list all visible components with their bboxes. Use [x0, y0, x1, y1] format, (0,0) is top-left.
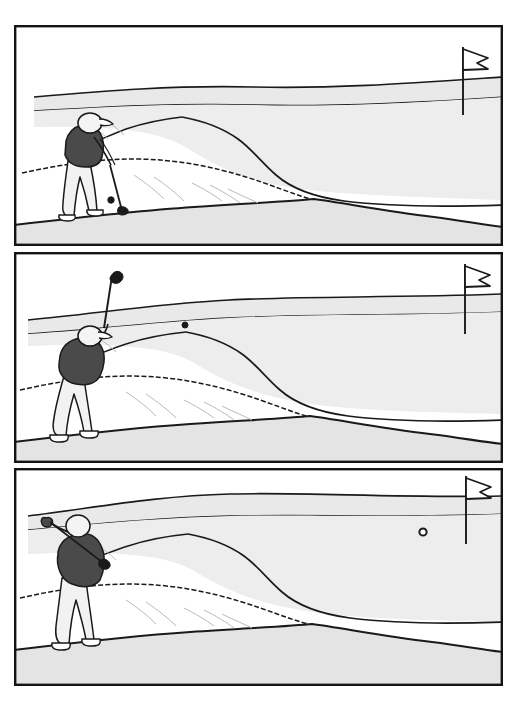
panel-3-artwork — [14, 468, 503, 686]
golf-club-head — [118, 207, 129, 215]
golfer-head — [78, 326, 102, 346]
illustration-page: Three stacked black-and-white line-drawi… — [0, 0, 517, 706]
golfer-head — [78, 113, 102, 133]
golfer-shoe-left — [59, 215, 75, 221]
golf-ball — [419, 528, 426, 535]
golfer-shoe-left — [50, 435, 68, 442]
golf-club-head — [99, 559, 111, 569]
golfer-shoe-right — [87, 210, 103, 216]
golfer-shoe-right — [80, 431, 98, 438]
golf-ball — [182, 322, 188, 328]
golfer-torso — [58, 534, 105, 587]
panel-2-artwork — [14, 252, 503, 463]
panel-3-scene — [14, 476, 503, 686]
comic-panel-3: Panel 3 — Follow-through Full finish, ha… — [14, 468, 503, 686]
golf-ball — [108, 197, 114, 203]
comic-panel-2: Panel 2 — Through impact Club swung up, … — [14, 252, 503, 463]
golfer-head — [66, 515, 90, 537]
panel-1-artwork — [14, 25, 503, 246]
golfer-shoe-left — [52, 643, 70, 650]
comic-panel-1: Panel 1 — Address Addressing the ball, c… — [14, 25, 503, 246]
golfer-shoe-right — [82, 639, 100, 646]
